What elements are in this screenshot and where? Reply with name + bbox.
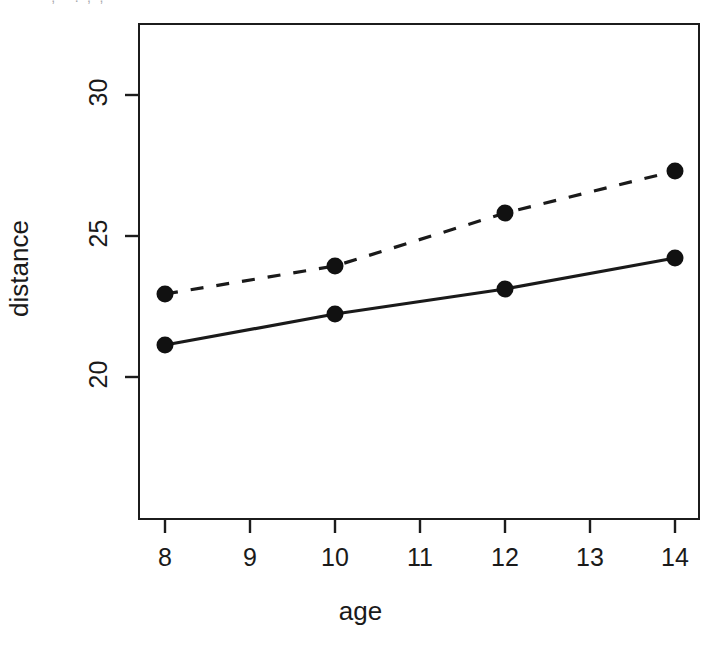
- y-tick-label-25: 25: [84, 199, 113, 269]
- y-tick-label-20: 20: [84, 340, 113, 410]
- clipped-caption-text: ' , ' . , ,: [40, 0, 106, 5]
- x-axis-ticks: [165, 520, 675, 533]
- x-tick-label-13: 13: [560, 543, 620, 572]
- y-axis-title: distance: [4, 209, 35, 329]
- x-tick-label-8: 8: [135, 543, 195, 572]
- chart-figure: ' , ' . , ,: [0, 0, 721, 650]
- x-tick-label-9: 9: [220, 543, 280, 572]
- y-axis-ticks: [125, 95, 138, 377]
- plot-area-border: [138, 23, 700, 520]
- x-tick-label-10: 10: [305, 543, 365, 572]
- x-tick-label-12: 12: [475, 543, 535, 572]
- x-tick-label-11: 11: [390, 543, 450, 572]
- y-tick-label-30: 30: [84, 58, 113, 128]
- clipped-caption-remnant: ' , ' . , ,: [0, 0, 721, 5]
- x-axis-title: age: [0, 596, 721, 627]
- x-tick-label-14: 14: [645, 543, 705, 572]
